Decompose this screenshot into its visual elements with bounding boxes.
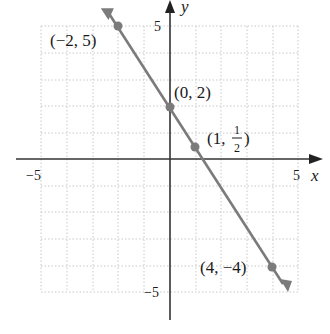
point-label-4-neg4: (4, −4) [200, 258, 246, 277]
point-label-1-half-prefix: (1, [207, 129, 230, 148]
y-axis-label: y [179, 0, 189, 16]
y-max-tick: 5 [154, 19, 161, 34]
fraction-denominator: 2 [234, 141, 240, 155]
line-arrow-down-icon [280, 279, 292, 292]
x-min-tick: −5 [26, 168, 41, 183]
point-0-2 [166, 103, 175, 112]
fraction-numerator: 1 [234, 123, 240, 137]
line-arrow-up-icon [101, 2, 118, 20]
point-label-0-2: (0, 2) [174, 83, 211, 102]
coordinate-plane: −5 5 5 −5 x y (−2, 5) (0, 2) (1, 1 2 ) (… [0, 0, 330, 334]
y-axis-arrow-icon [165, 0, 175, 13]
point-neg2-5 [114, 22, 123, 31]
point-label-1-half: (1, 1 2 ) [207, 123, 250, 155]
x-axis-label: x [310, 166, 319, 185]
x-max-tick: 5 [293, 168, 300, 183]
point-label-1-half-suffix: ) [244, 129, 250, 148]
point-4-neg4 [268, 263, 277, 272]
x-axis-arrow-icon [309, 154, 323, 164]
point-1-half [191, 143, 200, 152]
point-label-neg2-5: (−2, 5) [50, 31, 96, 50]
y-min-tick: −5 [144, 285, 159, 300]
